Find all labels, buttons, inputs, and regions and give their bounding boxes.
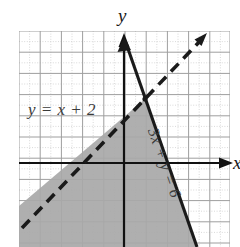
dashed-line-equation-label: y = x + 2 bbox=[28, 101, 96, 118]
x-axis-label: x bbox=[233, 153, 240, 172]
graph-figure: y = x + 2 3x + y = 6 y x bbox=[0, 0, 240, 247]
y-axis-label: y bbox=[118, 6, 126, 25]
intersection-point bbox=[142, 96, 147, 101]
coordinate-plane-svg bbox=[0, 0, 240, 247]
